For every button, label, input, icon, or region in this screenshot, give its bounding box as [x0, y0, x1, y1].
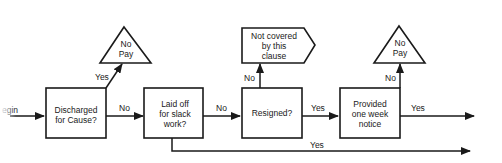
notice-line-3: notice — [359, 119, 382, 129]
edge-label-resigned-no: No — [244, 73, 255, 83]
discharged-line-1: Discharged — [55, 105, 98, 115]
node-laid-off: Laid off for slack work? — [144, 88, 203, 138]
notice-line-1: Provided — [353, 99, 387, 109]
node-no-pay-2: No Pay — [374, 26, 425, 63]
edge-label-notice-yes: Yes — [411, 103, 425, 113]
node-resigned: Resigned? — [242, 88, 302, 138]
laid-off-line-3: work? — [163, 119, 187, 129]
edge-label-resigned-yes: Yes — [311, 103, 325, 113]
left-fade-overlay — [0, 95, 16, 135]
discharged-line-2: for Cause? — [55, 115, 97, 125]
not-covered-line-3: clause — [262, 51, 287, 61]
not-covered-line-2: by this — [262, 41, 287, 51]
edge-label-laid-off-yes: Yes — [310, 140, 324, 150]
not-covered-line-1: Not covered — [251, 31, 297, 41]
laid-off-line-2: for slack — [159, 109, 191, 119]
node-no-pay-1: No Pay — [100, 27, 151, 63]
flowchart: egin Discharged for Cause? Yes No Pay No… — [0, 0, 502, 163]
no-pay-2-line-2: Pay — [393, 48, 408, 58]
edge-label-discharged-yes: Yes — [95, 72, 109, 82]
laid-off-line-1: Laid off — [161, 99, 189, 109]
node-discharged: Discharged for Cause? — [46, 88, 106, 138]
no-pay-2-line-1: No — [395, 38, 406, 48]
edge-label-laid-off-no: No — [216, 103, 227, 113]
notice-line-2: one week — [352, 109, 389, 119]
edge-label-notice-no: No — [385, 73, 396, 83]
no-pay-1-line-1: No — [121, 39, 132, 49]
node-notice: Provided one week notice — [340, 88, 400, 138]
node-not-covered: Not covered by this clause — [242, 28, 315, 63]
edge-label-discharged-no: No — [119, 103, 130, 113]
resigned-line-1: Resigned? — [252, 108, 293, 118]
no-pay-1-line-2: Pay — [119, 49, 134, 59]
